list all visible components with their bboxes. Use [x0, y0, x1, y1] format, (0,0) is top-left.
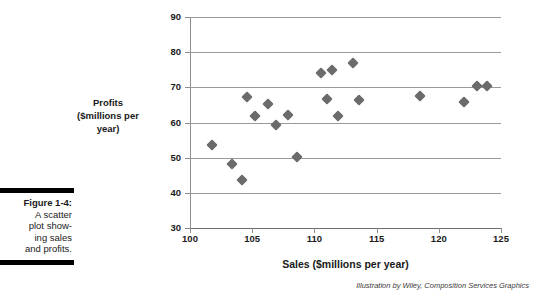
y-tick-mark-50 — [185, 158, 190, 159]
x-axis-title: Sales ($millions per year) — [190, 258, 501, 270]
y-tick-mark-70 — [185, 87, 190, 88]
y-tick-mark-60 — [185, 123, 190, 124]
y-tick-mark-90 — [185, 17, 190, 18]
y-tick-label-90: 90 — [155, 11, 181, 22]
data-point — [326, 64, 337, 75]
data-point — [354, 94, 365, 105]
data-point — [458, 96, 469, 107]
data-point — [249, 110, 260, 121]
y-axis-title-line-2: ($millions per — [62, 109, 154, 122]
data-point — [283, 109, 294, 120]
y-tick-label-70: 70 — [155, 81, 181, 92]
gridline-y-80 — [190, 52, 501, 53]
gridline-y-60 — [190, 123, 501, 124]
y-tick-mark-80 — [185, 52, 190, 53]
y-tick-mark-40 — [185, 193, 190, 194]
illustration-credit: Illustration by Wiley, Composition Servi… — [356, 281, 529, 290]
x-tick-label-105: 105 — [235, 233, 269, 244]
data-point — [291, 151, 302, 162]
x-tick-label-110: 110 — [297, 233, 331, 244]
data-point — [263, 98, 274, 109]
x-tick-label-120: 120 — [422, 233, 456, 244]
y-tick-label-60: 60 — [155, 117, 181, 128]
gridline-y-90 — [190, 17, 501, 18]
y-axis-title-line-1: Profits — [62, 96, 154, 109]
gridline-y-30 — [190, 228, 501, 229]
y-tick-label-30: 30 — [155, 222, 181, 233]
data-point — [270, 120, 281, 131]
data-point — [482, 80, 493, 91]
y-tick-label-50: 50 — [155, 152, 181, 163]
data-point — [321, 93, 332, 104]
plot-region — [190, 17, 501, 228]
x-tick-label-115: 115 — [360, 233, 394, 244]
data-point — [414, 90, 425, 101]
data-point — [347, 57, 358, 68]
data-point — [242, 91, 253, 102]
data-point — [207, 140, 218, 151]
data-point — [315, 68, 326, 79]
scatter-chart: 30405060708090100105110115120125 Profits… — [0, 0, 535, 298]
x-tick-label-100: 100 — [173, 233, 207, 244]
data-point — [237, 175, 248, 186]
y-axis-title: Profits ($millions per year) — [62, 96, 154, 135]
gridline-y-50 — [190, 158, 501, 159]
data-point — [332, 110, 343, 121]
y-tick-label-80: 80 — [155, 46, 181, 57]
y-axis-title-line-3: year) — [62, 122, 154, 135]
x-tick-label-125: 125 — [484, 233, 518, 244]
gridline-y-70 — [190, 87, 501, 88]
y-tick-label-40: 40 — [155, 187, 181, 198]
gridline-y-40 — [190, 193, 501, 194]
data-point — [227, 158, 238, 169]
